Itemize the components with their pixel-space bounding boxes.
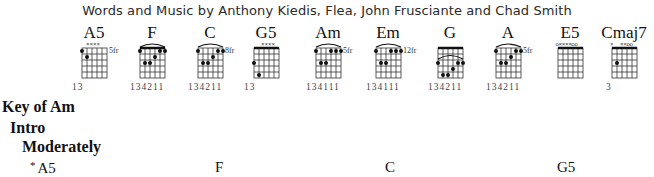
chord-name: G5 [236,24,296,42]
section-label: Intro [10,119,45,137]
chord-symbol-a5: *A5 [30,159,56,177]
svg-text:8fr: 8fr [225,46,235,55]
svg-text:o××××oo: o××××oo [556,41,579,47]
chord-fingering: 134211 [122,82,182,93]
chord-diagram-g: G 134211 [420,24,480,93]
chord-diagram-g5: G5 ×××× 13 [236,24,296,93]
fretboard-grid-icon: ×××× [246,42,286,82]
chord-name: A [478,24,538,42]
footnote-asterisk: * [30,159,36,171]
tempo-marking: Moderately [22,138,101,156]
chord-name: Cmaj7 [594,24,654,42]
chord-diagram-em: Em 12fr 134111 [358,24,418,93]
chord-diagram-a5: A5 ×××× 5fr 13 [64,24,124,93]
chord-symbol-label: A5 [38,160,56,176]
chord-fingering: 134111 [358,82,418,93]
chord-fingering: 134111 [298,82,358,93]
chord-diagram-e5: E5 o××××oo [540,24,600,93]
fretboard-grid-icon: o××××oo [550,42,590,82]
song-credits: Words and Music by Anthony Kiedis, Flea,… [0,3,654,18]
svg-text:××××: ×××× [86,41,101,47]
svg-text:5fr: 5fr [343,46,353,55]
chord-name: G [420,24,480,42]
chord-fingering: 13 [64,82,124,93]
chord-fingering [540,82,600,93]
chord-name: F [122,24,182,42]
chord-name: C [180,24,240,42]
chord-fingering: 134211 [478,82,538,93]
svg-text:12fr: 12fr [403,46,417,55]
chord-diagram-a: A 5fr 134211 [478,24,538,93]
chord-name: Em [358,24,418,42]
chord-symbol-label: F [215,159,223,175]
chord-name: E5 [540,24,600,42]
fretboard-grid-icon: ×××× 5fr [74,42,114,82]
chord-fingering: 13 [236,82,296,93]
chord-name: Am [298,24,358,42]
svg-text:×: × [610,41,614,47]
chord-symbol-g5: G5 [557,159,575,176]
chord-diagram-cmaj7: Cmaj7 × ××oo 3 [594,24,654,93]
svg-text:5fr: 5fr [109,46,119,55]
chord-fingering: 134211 [180,82,240,93]
fretboard-grid-icon: 5fr [488,42,528,82]
fretboard-grid-icon: 8fr [190,42,230,82]
chord-name: A5 [64,24,124,42]
fretboard-grid-icon: 5fr [308,42,348,82]
chord-symbol-label: G5 [557,159,575,175]
fretboard-grid-icon [430,42,470,82]
fretboard-grid-icon [132,42,172,82]
chord-symbol-label: C [385,159,395,175]
fretboard-grid-icon: × ××oo [604,42,644,82]
chord-symbol-c: C [385,159,395,176]
chord-diagram-c: C 8fr 134211 [180,24,240,93]
svg-text:××oo: ××oo [620,41,633,47]
chord-fingering: 3 [594,82,654,93]
chord-diagram-f: F 134211 [122,24,182,93]
svg-text:××××: ×××× [261,41,276,47]
fretboard-grid-icon: 12fr [368,42,408,82]
key-signature: Key of Am [2,98,75,116]
svg-text:5fr: 5fr [523,46,533,55]
chord-fingering: 134211 [420,82,480,93]
chord-symbol-f: F [215,159,223,176]
chord-diagram-am: Am 5fr 134111 [298,24,358,93]
